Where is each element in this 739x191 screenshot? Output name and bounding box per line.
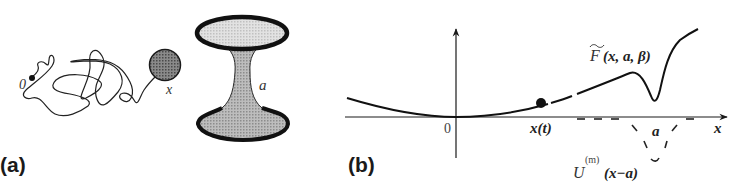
origin-label-b: 0: [444, 121, 451, 136]
obstacle-label: a: [259, 77, 267, 93]
particle-label: x: [165, 82, 173, 97]
well-position-label: a: [652, 123, 660, 139]
panel-b: 0 x(t) x a F (x, a, β) U (m) (x−a) (b): [345, 29, 727, 182]
panel-b-label: (b): [348, 153, 375, 176]
origin-dot: [29, 75, 35, 81]
figure-canvas: 0 x a (a): [0, 0, 739, 191]
hourglass-top: [197, 17, 287, 49]
potential-args: (x−a): [604, 165, 638, 182]
particle-sphere: [150, 50, 181, 81]
x-axis-label: x: [713, 120, 722, 136]
particle-position-label: x(t): [529, 120, 552, 137]
potential-superscript: (m): [585, 154, 599, 166]
free-energy-curve-segment: [551, 96, 572, 103]
polymer-chain: [24, 50, 156, 115]
free-energy-curve-segment: [577, 29, 698, 101]
hourglass-body: [198, 44, 288, 140]
hourglass-obstacle: [197, 17, 288, 140]
free-energy-symbol: F: [589, 47, 600, 64]
free-energy-args: (x, a, β): [603, 48, 651, 65]
panel-a: 0 x a (a): [0, 17, 288, 176]
potential-label: U (m) (x−a): [573, 154, 638, 182]
particle-dot: [536, 98, 546, 108]
panel-a-label: (a): [0, 153, 26, 176]
potential-symbol: U: [573, 164, 586, 181]
free-energy-curve: [347, 98, 548, 117]
free-energy-label: F (x, a, β): [589, 45, 651, 65]
figure: 0 x a (a): [0, 0, 739, 191]
origin-label: 0: [19, 77, 26, 92]
